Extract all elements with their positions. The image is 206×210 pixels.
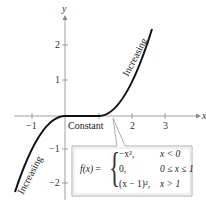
x-tick-label: −1 <box>26 120 37 131</box>
x-axis-label: x <box>201 110 206 121</box>
x-tick-label: 3 <box>163 120 168 131</box>
piecewise-formula: f(x) = { −x², x < 0 0, 0 ≤ x ≤ 1 (x − 1)… <box>72 145 192 196</box>
y-axis-label: y <box>61 3 67 14</box>
x-tick-label: 2 <box>130 120 135 131</box>
case-expr: 0, <box>119 164 126 174</box>
x-axis-arrow-icon <box>196 114 201 119</box>
y-axis-arrow-icon <box>63 15 68 20</box>
case-expr: −x², <box>119 149 134 159</box>
y-tick-label: 1 <box>55 74 60 85</box>
increasing-right-label: Increasing <box>120 36 149 78</box>
case-cond: 0 ≤ x ≤ 1 <box>160 164 194 174</box>
case-expr: (x − 1)², <box>119 179 150 189</box>
y-tick-label: 2 <box>55 39 60 50</box>
constant-label: Constant <box>68 120 104 131</box>
case-cond: x > 1 <box>160 179 180 189</box>
y-tick-label: −2 <box>49 177 60 188</box>
case-cond: x < 0 <box>160 149 180 159</box>
y-tick-label: −1 <box>49 143 60 154</box>
increasing-left-label: Increasing <box>15 154 44 196</box>
formula-name: f(x) = <box>80 164 101 174</box>
